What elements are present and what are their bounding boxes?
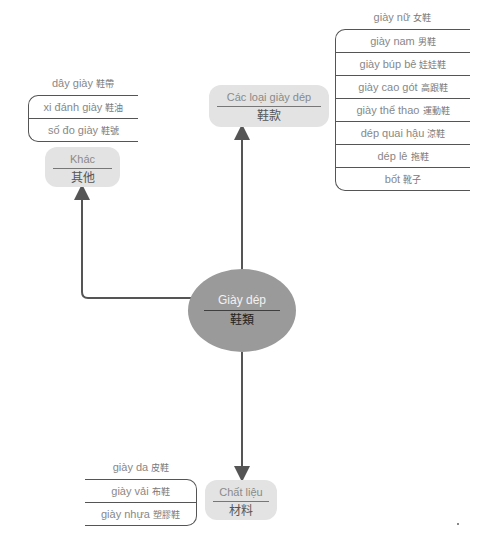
branch-label-vi: Các loại giày dép xyxy=(209,85,329,104)
list-item[interactable]: giày cao gót 高跟鞋 xyxy=(336,75,470,98)
list-box: giày nam 男鞋 giày búp bê 娃娃鞋 giày cao gót… xyxy=(335,29,470,191)
material-list: giày da 皮鞋 giày vải 布鞋 giày nhựa 塑膠鞋 xyxy=(85,457,197,526)
list-item[interactable]: giày vải 布鞋 xyxy=(85,480,196,502)
branch-label-zh: 材料 xyxy=(205,504,277,519)
list-item[interactable]: dép lê 拖鞋 xyxy=(336,144,470,167)
branch-label-vi: Khác xyxy=(45,147,120,166)
branch-label-zh: 其他 xyxy=(45,171,120,186)
branch-label-zh: 鞋款 xyxy=(209,109,329,124)
branch-node-other[interactable]: Khác 其他 xyxy=(45,147,120,187)
list-item[interactable]: dây giày 鞋帶 xyxy=(28,73,138,95)
central-topic-label-zh: 鞋類 xyxy=(188,313,296,328)
list-item[interactable]: số đo giày 鞋號 xyxy=(29,118,138,141)
list-item[interactable]: giày nhựa 塑膠鞋 xyxy=(85,502,196,525)
list-item[interactable]: bốt 靴子 xyxy=(336,167,470,190)
list-item[interactable]: dép quai hậu 涼鞋 xyxy=(336,121,470,144)
divider xyxy=(217,106,321,107)
list-box: giày vải 布鞋 giày nhựa 塑膠鞋 xyxy=(85,479,197,526)
list-item[interactable]: giày thể thao 運動鞋 xyxy=(336,98,470,121)
list-item[interactable]: xi đánh giày 鞋油 xyxy=(29,96,138,118)
branch-label-vi: Chất liệu xyxy=(205,480,277,499)
types-list: giày nữ 女鞋 giày nam 男鞋 giày búp bê 娃娃鞋 g… xyxy=(335,7,470,191)
central-topic-label-vi: Giày dép xyxy=(188,293,296,308)
central-topic-node[interactable]: Giày dép 鞋類 xyxy=(188,269,296,352)
list-item[interactable]: giày nam 男鞋 xyxy=(336,30,470,52)
list-box: xi đánh giày 鞋油 số đo giày 鞋號 xyxy=(28,95,138,142)
branch-node-types[interactable]: Các loại giày dép 鞋款 xyxy=(209,85,329,127)
list-item[interactable]: giày búp bê 娃娃鞋 xyxy=(336,52,470,75)
list-item[interactable]: giày nữ 女鞋 xyxy=(335,7,470,29)
divider xyxy=(53,168,112,169)
divider xyxy=(204,310,280,311)
list-item[interactable]: giày da 皮鞋 xyxy=(85,457,197,479)
other-list: dây giày 鞋帶 xi đánh giày 鞋油 số đo giày 鞋… xyxy=(28,73,138,142)
branch-node-material[interactable]: Chất liệu 材料 xyxy=(205,480,277,520)
divider xyxy=(213,501,269,502)
